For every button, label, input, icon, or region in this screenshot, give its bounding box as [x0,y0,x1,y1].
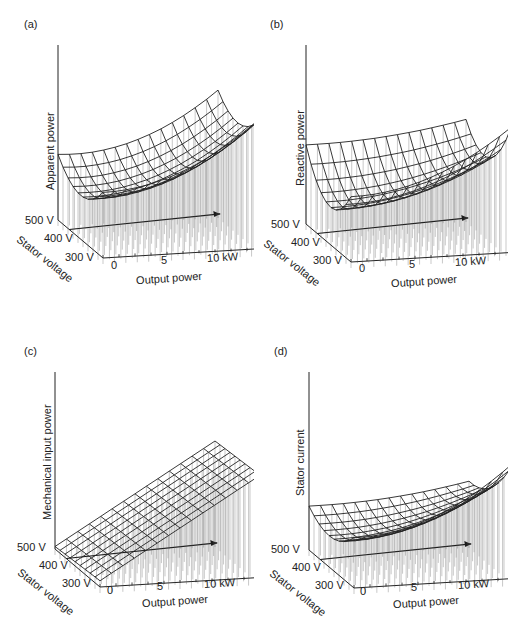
z-axis-label: Apparent power [44,112,56,190]
y-tick-300v: 300 V [313,254,342,266]
y-tick-300v: 300 V [62,577,91,589]
panel-c: (c) Mechanical input power 500 V 400 V 3… [0,320,254,630]
x-tick-10kw: 10 kW [458,577,490,591]
panel-label: (a) [24,18,37,30]
x-tick-5: 5 [409,258,415,270]
y-tick-500v: 500 V [271,218,300,230]
panel-b: (b) Reactive power 500 V 400 V 300 V Sta… [254,0,508,310]
panel-label: (b) [270,18,283,30]
panel-label: (c) [24,345,37,357]
x-tick-0: 0 [107,584,113,596]
z-axis-label: Mechanical input power [41,404,53,520]
z-axis-label: Reactive power [294,110,306,186]
x-tick-5: 5 [161,254,167,266]
y-tick-300v: 300 V [315,579,344,591]
y-tick-400v: 400 V [39,559,68,571]
panel-label: (d) [274,345,287,357]
x-tick-0: 0 [111,259,117,271]
x-tick-0: 0 [360,585,366,597]
y-tick-400v: 400 V [291,236,320,248]
x-tick-0: 0 [359,262,365,274]
z-axis-label: Stator current [294,429,306,496]
y-tick-500v: 500 V [25,214,54,226]
y-tick-300v: 300 V [65,251,94,263]
y-tick-400v: 400 V [44,232,73,244]
y-tick-500v: 500 V [17,541,46,553]
panel-a: (a) Apparent power 500 V 400 V 300 V Sta… [0,0,254,310]
x-tick-5: 5 [411,581,417,593]
x-tick-10kw: 10 kW [204,576,236,590]
y-tick-400v: 400 V [292,561,321,573]
y-tick-500v: 500 V [271,543,300,555]
figure-caption [10,632,500,639]
surface-plot-apparent-power [0,0,254,310]
x-tick-10kw: 10 kW [207,250,239,264]
x-tick-10kw: 10 kW [455,254,487,268]
panel-d: (d) Stator current 500 V 400 V 300 V Sta… [254,320,508,630]
x-tick-5: 5 [157,580,163,592]
